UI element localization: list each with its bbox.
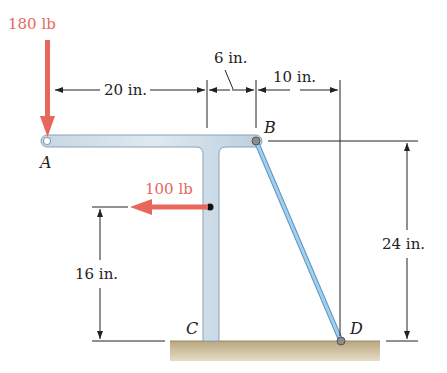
pin-d xyxy=(337,337,345,345)
dimension-lines xyxy=(55,70,418,341)
point-c-label: C xyxy=(186,321,198,337)
pin-a xyxy=(44,138,51,145)
statics-diagram: 180 lb 100 lb A B C D 20 in. 6 in. 10 in… xyxy=(0,0,447,373)
point-d-label: D xyxy=(350,321,363,337)
dim-6-in: 6 in. xyxy=(214,51,248,66)
ground xyxy=(170,341,380,361)
force-180-arrow xyxy=(40,40,55,137)
dim-20-in: 20 in. xyxy=(104,83,147,98)
point-a-label: A xyxy=(40,155,52,171)
force-180-label: 180 lb xyxy=(8,17,56,32)
force-100-arrow xyxy=(130,199,208,215)
point-b-label: B xyxy=(264,120,276,136)
force-100-label: 100 lb xyxy=(145,182,193,197)
pin-b xyxy=(252,137,260,145)
t-member xyxy=(41,135,262,341)
dim-16-in: 16 in. xyxy=(73,267,120,282)
dim-24-in: 24 in. xyxy=(380,237,427,252)
dim-10-in: 10 in. xyxy=(273,70,316,85)
